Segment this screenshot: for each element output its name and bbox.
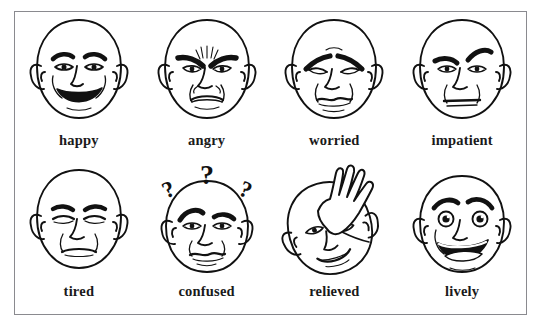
svg-text:?: ? xyxy=(158,176,179,204)
face-cell-impatient: impatient xyxy=(398,12,526,163)
figure-page: happy xyxy=(0,0,545,331)
question-mark-center: ? xyxy=(200,159,214,190)
face-cell-lively: lively xyxy=(398,163,526,314)
face-illustration-impatient xyxy=(400,14,524,132)
svg-text:?: ? xyxy=(235,176,255,203)
face-cell-angry: angry xyxy=(143,12,271,163)
face-label-tired: tired xyxy=(64,284,95,299)
faces-grid: happy xyxy=(15,12,526,314)
face-illustration-angry xyxy=(145,14,269,132)
face-cell-confused: ? ? ? xyxy=(143,163,271,314)
face-cell-worried: worried xyxy=(271,12,399,163)
question-mark-right: ? xyxy=(235,176,255,203)
face-illustration-worried xyxy=(272,14,396,132)
face-label-happy: happy xyxy=(59,133,99,148)
face-cell-tired: tired xyxy=(15,163,143,314)
face-cell-happy: happy xyxy=(15,12,143,163)
face-label-confused: confused xyxy=(178,284,234,299)
face-label-relieved: relieved xyxy=(309,284,359,299)
face-illustration-lively xyxy=(400,164,524,282)
face-cell-relieved: relieved xyxy=(271,163,399,314)
face-illustration-relieved xyxy=(272,164,396,282)
face-illustration-confused: ? ? ? xyxy=(145,164,269,282)
question-mark-left: ? xyxy=(158,176,179,204)
face-label-angry: angry xyxy=(188,133,225,148)
face-label-lively: lively xyxy=(445,284,479,299)
svg-text:?: ? xyxy=(200,159,214,190)
face-label-impatient: impatient xyxy=(431,133,492,148)
face-label-worried: worried xyxy=(309,133,360,148)
face-illustration-happy xyxy=(17,14,141,132)
face-illustration-tired xyxy=(17,164,141,282)
illustration-frame: happy xyxy=(14,11,527,315)
